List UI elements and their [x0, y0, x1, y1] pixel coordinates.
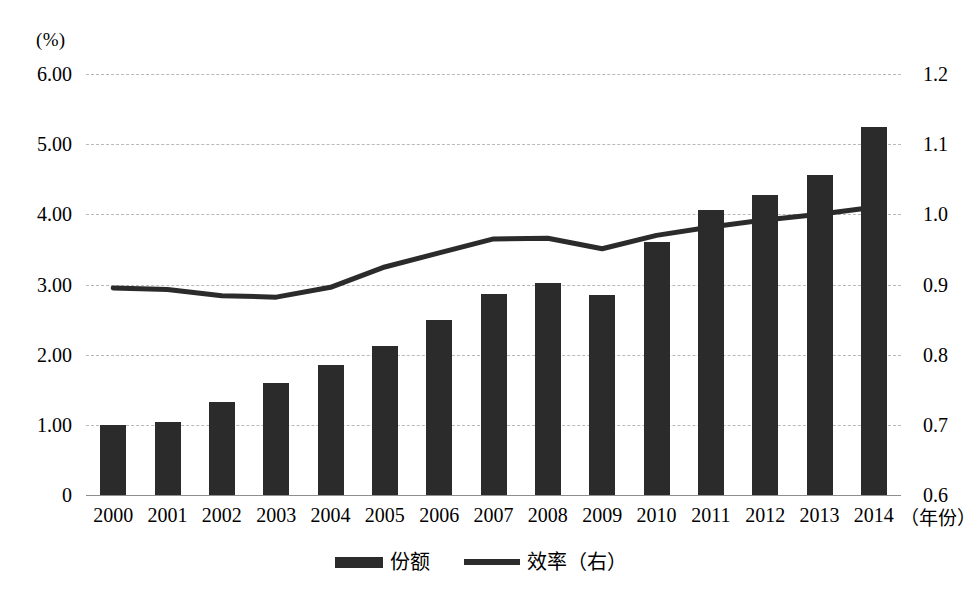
line-swatch-icon	[464, 559, 520, 565]
x-tick: 2006	[419, 505, 459, 525]
y-axis-unit-label: (%)	[36, 30, 65, 49]
x-tick: 2012	[745, 505, 785, 525]
x-tick: 2008	[528, 505, 568, 525]
y-tick-left: 3.00	[37, 275, 72, 295]
x-tick: 2005	[365, 505, 405, 525]
legend-item-share[interactable]: 份额	[335, 552, 430, 572]
x-axis-ticks: 2000200120022003200420052006200720082009…	[86, 505, 901, 535]
x-tick: 2007	[474, 505, 514, 525]
plot-area: 01.002.003.004.005.006.00 0.60.70.80.91.…	[86, 74, 901, 495]
y-tick-right: 0.8	[923, 345, 948, 365]
chart-legend: 份额 效率（右）	[0, 552, 962, 572]
y-tick-right: 0.7	[923, 415, 948, 435]
y-tick-left: 5.00	[37, 134, 72, 154]
y-tick-right: 0.9	[923, 275, 948, 295]
x-tick: 2014	[854, 505, 894, 525]
y-tick-right: 1.0	[923, 204, 948, 224]
x-tick: 2004	[311, 505, 351, 525]
gridline	[86, 495, 901, 496]
efficiency-line	[113, 207, 874, 297]
legend-label-efficiency: 效率（右）	[527, 552, 627, 572]
x-tick: 2001	[148, 505, 188, 525]
y-tick-right: 1.2	[923, 64, 948, 84]
y-tick-left: 6.00	[37, 64, 72, 84]
x-tick: 2009	[582, 505, 622, 525]
legend-item-efficiency[interactable]: 效率（右）	[464, 552, 627, 572]
x-tick: 2011	[691, 505, 730, 525]
x-tick: 2003	[256, 505, 296, 525]
y-tick-left: 4.00	[37, 204, 72, 224]
y-tick-left: 1.00	[37, 415, 72, 435]
x-axis-title: （年份）	[900, 509, 968, 528]
y-tick-right: 1.1	[923, 134, 948, 154]
y-tick-left: 2.00	[37, 345, 72, 365]
bar-swatch-icon	[335, 557, 383, 568]
x-tick: 2002	[202, 505, 242, 525]
y-tick-right: 0.6	[923, 485, 948, 505]
x-tick: 2000	[93, 505, 133, 525]
legend-label-share: 份额	[390, 552, 430, 572]
y-tick-left: 0	[62, 485, 72, 505]
line-series-xiao-lv	[86, 74, 901, 495]
x-tick: 2010	[637, 505, 677, 525]
x-tick: 2013	[800, 505, 840, 525]
